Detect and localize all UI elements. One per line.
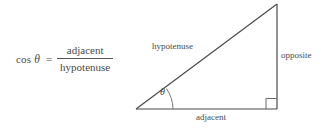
hypotenuse-label: hypotenuse [152, 42, 193, 51]
opposite-label: opposite [281, 51, 312, 60]
hypotenuse-side-line [136, 4, 277, 109]
trigonometry-figure: cos θ = adjacent hypotenuse hypotenuse o… [0, 0, 321, 131]
theta-angle-label: θ [160, 87, 165, 97]
angle-arc [167, 89, 174, 109]
adjacent-label: adjacent [196, 113, 226, 122]
right-triangle-diagram: hypotenuse opposite adjacent θ [0, 0, 321, 131]
right-angle-marker [266, 99, 277, 110]
